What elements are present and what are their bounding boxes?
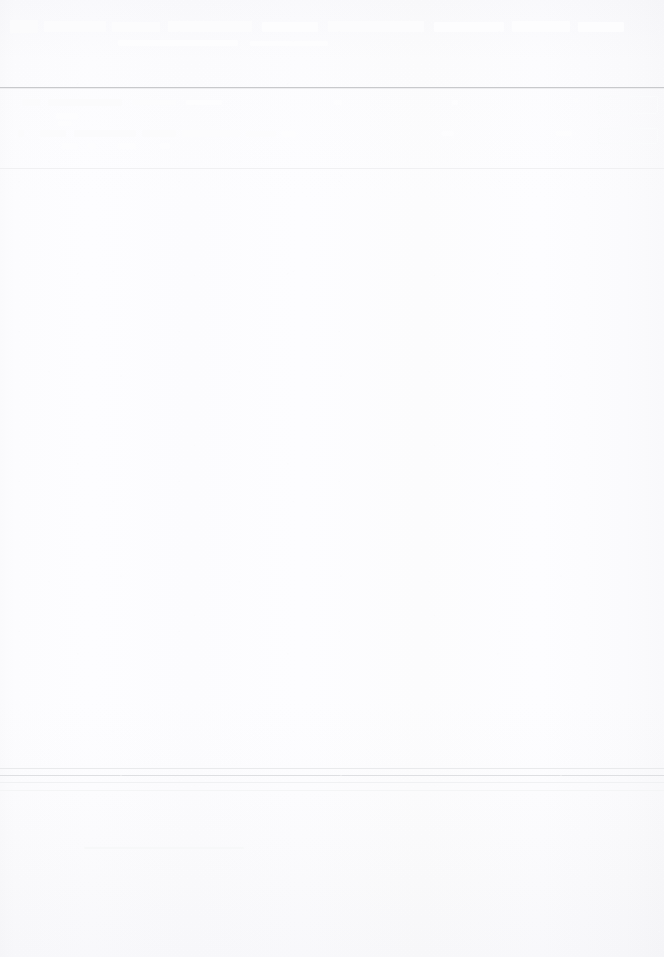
toolbar-text-fragment bbox=[160, 143, 170, 149]
toolbar-text-fragment bbox=[182, 130, 240, 137]
toolbar-text-fragment bbox=[556, 131, 572, 136]
header-title-ghost-3 bbox=[112, 22, 160, 32]
header-title-ghost-6 bbox=[328, 21, 424, 32]
content-divider bbox=[0, 168, 664, 169]
toolbar-field-outline[interactable] bbox=[598, 96, 658, 114]
document-page bbox=[0, 0, 664, 957]
header-title-ghost-7 bbox=[434, 22, 504, 32]
document-footer bbox=[0, 795, 664, 957]
header-band bbox=[0, 0, 664, 87]
toolbar-text-fragment bbox=[142, 130, 176, 137]
toolbar-text-fragment bbox=[132, 100, 176, 105]
toolbar-text-fragment bbox=[334, 100, 342, 105]
footer-divider-3 bbox=[0, 782, 664, 783]
footer-divider-1 bbox=[0, 768, 664, 769]
toolbar-text-fragment bbox=[88, 143, 96, 149]
toolbar-text-fragment bbox=[442, 131, 454, 136]
header-subline-ghost-2 bbox=[250, 41, 328, 46]
toolbar-text-fragment bbox=[74, 130, 136, 137]
toolbar-field-outline-2[interactable] bbox=[598, 128, 658, 144]
toolbar-text-fragment bbox=[48, 99, 122, 106]
footer-divider-4 bbox=[0, 790, 664, 791]
header-title-ghost-4 bbox=[168, 21, 252, 32]
toolbar-text-fragment bbox=[58, 121, 72, 126]
header-subline-ghost bbox=[118, 40, 238, 46]
header-divider-shadow bbox=[0, 88, 664, 89]
header-title-ghost bbox=[10, 20, 38, 33]
toolbar-row bbox=[0, 90, 664, 168]
toolbar-text-fragment bbox=[56, 113, 78, 119]
toolbar-text-fragment bbox=[246, 131, 276, 137]
toolbar-text-fragment bbox=[62, 143, 78, 149]
toolbar-text-fragment bbox=[18, 130, 24, 137]
document-body bbox=[0, 180, 664, 765]
toolbar-marker bbox=[574, 98, 578, 102]
toolbar-text-fragment bbox=[452, 100, 458, 105]
header-title-ghost-2 bbox=[44, 21, 106, 32]
header-title-ghost-5 bbox=[262, 22, 318, 32]
footer-text-fragment bbox=[84, 847, 244, 849]
footer-divider-2 bbox=[0, 775, 664, 776]
toolbar-text-fragment bbox=[40, 130, 66, 137]
toolbar-text-fragment bbox=[282, 131, 296, 137]
toolbar-text-fragment bbox=[118, 143, 136, 149]
header-title-ghost-9 bbox=[578, 22, 624, 32]
header-title-ghost-8 bbox=[512, 21, 570, 32]
toolbar-text-fragment bbox=[22, 99, 40, 106]
toolbar-text-fragment bbox=[186, 100, 222, 105]
